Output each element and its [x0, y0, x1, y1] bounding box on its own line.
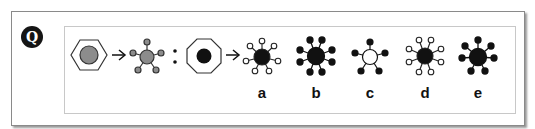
gray-star-6-spokes-figure — [130, 39, 164, 73]
octagon-black-circle-figure — [187, 39, 221, 73]
option-b-label[interactable]: b — [306, 84, 326, 101]
option-c-label[interactable]: c — [360, 84, 380, 101]
option-d-label[interactable]: d — [415, 84, 435, 101]
hexagon-gray-circle-figure — [71, 40, 107, 70]
arrow-right-icon — [112, 50, 125, 60]
option-e-figure[interactable] — [459, 37, 497, 74]
option-a-label[interactable]: a — [252, 84, 272, 101]
option-d-figure[interactable] — [406, 37, 444, 75]
option-c-figure[interactable] — [352, 39, 388, 74]
figure-canvas — [0, 0, 535, 129]
analogy-separator — [173, 49, 177, 64]
option-e-label[interactable]: e — [468, 84, 488, 101]
option-b-figure[interactable] — [297, 37, 335, 75]
option-a-figure[interactable] — [243, 38, 281, 74]
arrow-right-icon — [226, 50, 239, 60]
